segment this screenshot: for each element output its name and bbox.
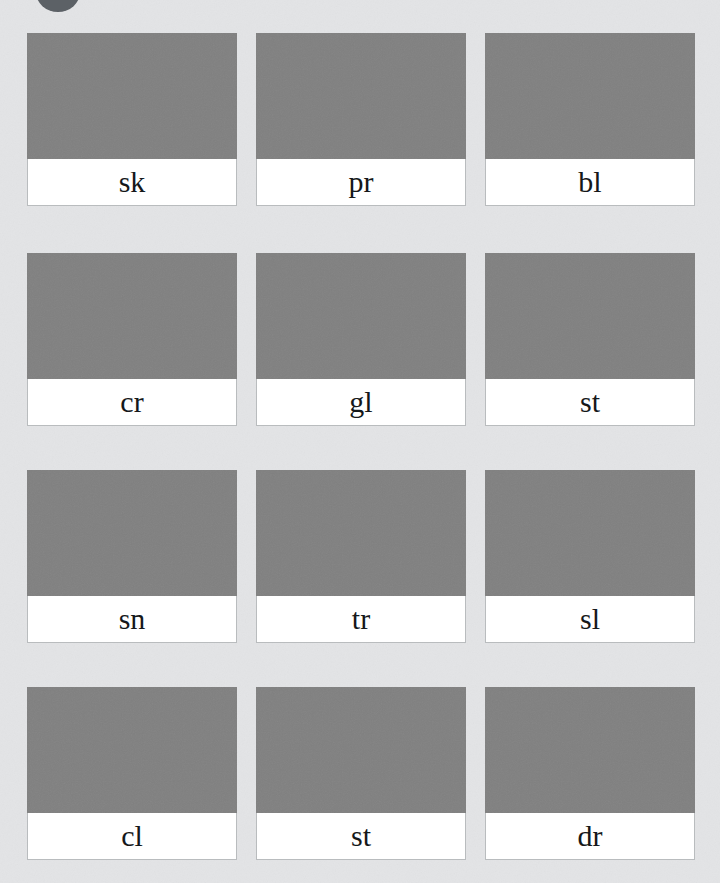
card-item[interactable]: sk bbox=[27, 33, 237, 206]
card-label: tr bbox=[256, 596, 466, 643]
card-label: gl bbox=[256, 379, 466, 426]
card-image-placeholder bbox=[485, 33, 695, 159]
card-label: pr bbox=[256, 159, 466, 206]
card-item[interactable]: sn bbox=[27, 470, 237, 643]
card-item[interactable]: dr bbox=[485, 687, 695, 860]
card-image-placeholder bbox=[256, 33, 466, 159]
card-item[interactable]: st bbox=[256, 687, 466, 860]
card-label: st bbox=[485, 379, 695, 426]
card-image-placeholder bbox=[485, 253, 695, 379]
card-image-placeholder bbox=[485, 687, 695, 813]
card-item[interactable]: sl bbox=[485, 470, 695, 643]
card-item[interactable]: cr bbox=[27, 253, 237, 426]
card-label: sl bbox=[485, 596, 695, 643]
card-item[interactable]: bl bbox=[485, 33, 695, 206]
card-item[interactable]: pr bbox=[256, 33, 466, 206]
card-item[interactable]: tr bbox=[256, 470, 466, 643]
card-image-placeholder bbox=[27, 470, 237, 596]
card-label: st bbox=[256, 813, 466, 860]
card-image-placeholder bbox=[27, 687, 237, 813]
card-item[interactable]: cl bbox=[27, 687, 237, 860]
card-image-placeholder bbox=[485, 470, 695, 596]
card-image-placeholder bbox=[27, 253, 237, 379]
card-label: cl bbox=[27, 813, 237, 860]
card-image-placeholder bbox=[27, 33, 237, 159]
card-item[interactable]: gl bbox=[256, 253, 466, 426]
card-label: sk bbox=[27, 159, 237, 206]
card-image-placeholder bbox=[256, 687, 466, 813]
card-label: sn bbox=[27, 596, 237, 643]
card-image-placeholder bbox=[256, 470, 466, 596]
card-grid: sk pr bl cr gl st sn bbox=[0, 0, 720, 883]
card-item[interactable]: st bbox=[485, 253, 695, 426]
card-label: dr bbox=[485, 813, 695, 860]
card-label: cr bbox=[27, 379, 237, 426]
card-label: bl bbox=[485, 159, 695, 206]
card-image-placeholder bbox=[256, 253, 466, 379]
